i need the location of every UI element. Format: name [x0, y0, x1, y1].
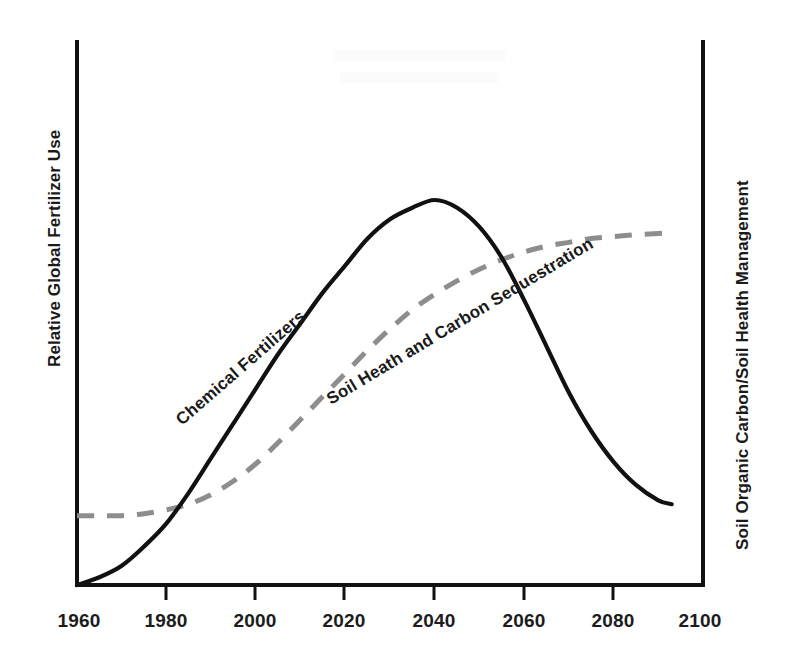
left-axis-title: Relative Global Fertilizer Use: [45, 130, 64, 367]
xtick-label-2040: 2040: [412, 610, 455, 631]
fertilizer-vs-soil-health-chart: 1960 1980 2000 2020 2040 2060 2080 2100 …: [0, 0, 790, 655]
xtick-label-2020: 2020: [322, 610, 365, 631]
xtick-label-2000: 2000: [233, 610, 276, 631]
xtick-label-2100: 2100: [678, 610, 721, 631]
xtick-label-1960: 1960: [57, 610, 100, 631]
chart-background: [0, 0, 790, 655]
xtick-label-2080: 2080: [591, 610, 634, 631]
xtick-label-1980: 1980: [144, 610, 187, 631]
xtick-label-2060: 2060: [502, 610, 545, 631]
figure-container: 1960 1980 2000 2020 2040 2060 2080 2100 …: [0, 0, 790, 655]
right-axis-title: Soil Organic Carbon/Soil Health Manageme…: [733, 180, 752, 550]
